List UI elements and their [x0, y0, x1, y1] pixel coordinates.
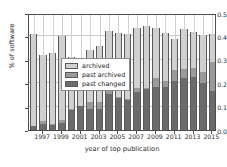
x-tick-mark: [136, 131, 137, 134]
bar-segment-archived: [153, 28, 159, 78]
bar-segment-archived: [172, 39, 178, 70]
bar-2008: [143, 26, 151, 130]
bar-segment-past-archived: [153, 78, 159, 87]
x-tick-label: 2003: [91, 133, 107, 140]
bar-segment-archived: [200, 35, 206, 72]
x-tick-mark: [61, 131, 62, 134]
bar-2015: [209, 34, 216, 130]
x-tick-label: 2013: [185, 133, 201, 140]
bar-segment-past-changed: [125, 100, 131, 130]
x-tick-label: 1999: [53, 133, 69, 140]
chart-legend: archivedpast archivedpast changed: [61, 58, 130, 91]
bar-segment-past-archived: [125, 99, 131, 100]
bar-segment-past-changed: [144, 88, 150, 130]
bar-segment-past-archived: [69, 109, 75, 110]
x-tick-label: 2001: [72, 133, 88, 140]
bar-segment-past-changed: [200, 83, 206, 130]
x-tick-mark: [42, 131, 43, 134]
bar-segment-past-changed: [87, 109, 93, 130]
bar-segment-past-archived: [210, 62, 216, 91]
legend-item-label: past changed: [82, 80, 125, 88]
x-axis-label: year of top publication: [28, 145, 216, 153]
bar-segment-past-changed: [50, 125, 56, 130]
bar-2013: [190, 32, 198, 130]
bar-segment-past-changed: [97, 109, 103, 130]
bar-segment-past-changed: [40, 124, 46, 130]
x-tick-mark: [174, 131, 175, 134]
bar-segment-archived: [50, 53, 56, 124]
bar-2010: [162, 33, 170, 130]
x-tick-label: 2005: [109, 133, 125, 140]
bar-segment-past-changed: [153, 87, 159, 130]
bar-segment-past-archived: [87, 102, 93, 109]
bar-segment-archived: [210, 34, 216, 62]
bar-segment-archived: [31, 34, 37, 126]
bar-segment-past-archived: [144, 88, 150, 89]
y-tick-mark: [25, 131, 28, 132]
bar-segment-past-changed: [191, 77, 197, 130]
x-tick-mark: [155, 131, 156, 134]
bar-2007: [133, 28, 141, 130]
x-tick-label: 2009: [147, 133, 163, 140]
bar-segment-archived: [40, 55, 46, 121]
x-tick-mark: [80, 131, 81, 134]
legend-swatch-icon: [65, 81, 78, 87]
x-tick-label: 1997: [34, 133, 50, 140]
bar-segment-past-archived: [97, 102, 103, 109]
legend-swatch-icon: [65, 72, 78, 78]
legend-item-past-changed[interactable]: past changed: [65, 79, 125, 88]
bar-segment-past-archived: [59, 120, 65, 122]
bar-1998: [49, 53, 57, 130]
bar-segment-past-archived: [163, 81, 169, 87]
x-tick-mark: [99, 131, 100, 134]
y-axis-label: % of software: [8, 6, 16, 86]
bar-segment-past-archived: [191, 68, 197, 78]
bar-segment-past-changed: [172, 81, 178, 130]
bar-segment-past-changed: [134, 92, 140, 130]
bar-segment-past-changed: [59, 123, 65, 130]
bar-segment-past-archived: [172, 70, 178, 82]
x-tick-label: 2007: [128, 133, 144, 140]
legend-item-archived[interactable]: archived: [65, 61, 125, 70]
chart-figure: % of software year of top publication 0.…: [0, 0, 227, 167]
legend-item-label: past archived: [82, 71, 125, 79]
bar-2014: [199, 35, 207, 130]
bar-2011: [171, 39, 179, 130]
bar-segment-archived: [134, 28, 140, 88]
x-tick-mark: [193, 131, 194, 134]
bar-segment-past-changed: [106, 94, 112, 130]
bar-segment-past-archived: [181, 69, 187, 78]
legend-item-label: archived: [82, 62, 110, 70]
bar-1996: [30, 34, 38, 130]
bar-1997: [39, 55, 47, 130]
bar-segment-archived: [181, 29, 187, 69]
bar-segment-archived: [191, 32, 197, 68]
bar-segment-past-archived: [50, 124, 56, 125]
legend-item-past-archived[interactable]: past archived: [65, 70, 125, 79]
bar-segment-past-changed: [116, 98, 122, 130]
legend-swatch-icon: [65, 63, 78, 69]
bar-segment-past-changed: [69, 110, 75, 130]
bar-segment-archived: [144, 26, 150, 88]
x-tick-label: 2011: [166, 133, 182, 140]
bar-segment-archived: [163, 33, 169, 81]
bar-segment-past-changed: [181, 78, 187, 130]
bar-segment-past-changed: [210, 91, 216, 130]
bar-segment-past-archived: [40, 121, 46, 123]
bar-segment-past-archived: [134, 88, 140, 92]
bar-segment-past-changed: [31, 126, 37, 130]
x-tick-mark: [117, 131, 118, 134]
bar-segment-past-archived: [116, 97, 122, 98]
bar-2009: [152, 28, 160, 130]
bar-segment-past-archived: [200, 72, 206, 83]
x-tick-label: 2015: [203, 133, 219, 140]
bar-2012: [180, 29, 188, 130]
bar-segment-past-changed: [163, 87, 169, 130]
x-tick-mark: [211, 131, 212, 134]
bar-segment-past-changed: [78, 106, 84, 130]
